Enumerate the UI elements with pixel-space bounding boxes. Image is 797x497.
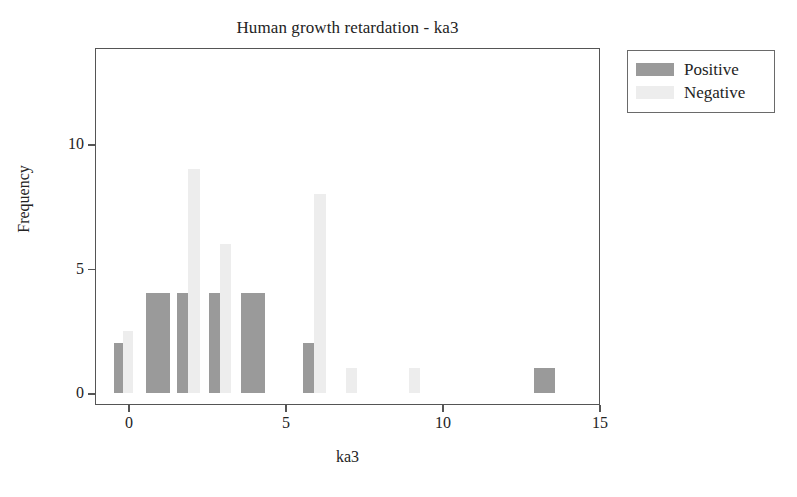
bar-negative-x0 xyxy=(123,331,133,393)
plot-area xyxy=(95,48,600,405)
legend-item-negative[interactable]: Negative xyxy=(636,81,766,104)
bar-positive-x3 xyxy=(209,293,220,393)
x-tick-label-5: 5 xyxy=(266,414,306,432)
y-tick-label-5: 5 xyxy=(44,260,84,278)
bar-negative-x9 xyxy=(409,368,420,393)
y-tick-label-0: 0 xyxy=(44,384,84,402)
y-tick-mark-5 xyxy=(88,269,95,270)
x-tick-mark-15 xyxy=(599,405,600,412)
bar-positive-x0 xyxy=(114,343,123,393)
y-tick-mark-10 xyxy=(88,144,95,145)
bar-negative-x2 xyxy=(188,169,200,393)
chart-legend: PositiveNegative xyxy=(627,50,775,113)
x-axis-title: ka3 xyxy=(95,448,600,466)
x-tick-mark-0 xyxy=(128,405,129,412)
x-tick-mark-10 xyxy=(442,405,443,412)
bar-positive-x6 xyxy=(303,343,314,393)
y-tick-mark-0 xyxy=(88,393,95,394)
legend-swatch-positive xyxy=(636,63,674,76)
bar-positive-x4 xyxy=(241,293,265,393)
x-tick-label-10: 10 xyxy=(423,414,463,432)
y-axis-title: Frequency xyxy=(15,119,33,279)
bar-positive-x2 xyxy=(177,293,188,393)
chart-figure: Human growth retardation - ka3 0510 0510… xyxy=(0,0,797,497)
legend-label-negative: Negative xyxy=(684,84,745,101)
x-tick-mark-5 xyxy=(285,405,286,412)
x-tick-label-15: 15 xyxy=(580,414,620,432)
chart-title: Human growth retardation - ka3 xyxy=(95,18,600,38)
bar-negative-x3 xyxy=(220,244,231,393)
bar-negative-x7 xyxy=(346,368,357,393)
legend-swatch-negative xyxy=(636,86,674,99)
legend-label-positive: Positive xyxy=(684,61,739,78)
bars-layer xyxy=(96,49,599,404)
bar-negative-x6 xyxy=(314,194,326,393)
x-tick-label-0: 0 xyxy=(109,414,149,432)
bar-positive-x13 xyxy=(534,368,555,393)
legend-item-positive[interactable]: Positive xyxy=(636,58,766,81)
y-tick-label-10: 10 xyxy=(44,135,84,153)
bar-positive-x1 xyxy=(146,293,170,393)
